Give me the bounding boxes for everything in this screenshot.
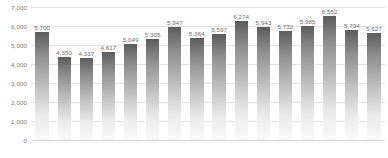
y-axis-tick-label: 2,000 (11, 99, 27, 106)
x-axis-tick (31, 140, 53, 158)
x-axis-tick (142, 140, 164, 158)
bar-value-label: 5,732 (278, 23, 294, 30)
x-axis-tick (53, 140, 75, 158)
bar-slot: 4,617 (97, 7, 119, 140)
bar-slot: 5,700 (31, 7, 53, 140)
x-axis-tick (75, 140, 97, 158)
bar-value-label: 5,305 (145, 31, 161, 38)
bar-value-label: 5,597 (211, 26, 227, 33)
bar[interactable]: 5,700 (35, 32, 48, 140)
bar-slot: 5,943 (252, 7, 274, 140)
bar-value-label: 6,552 (322, 8, 338, 15)
plot-area: 5,7004,3504,3374,6175,0495,3055,9475,364… (31, 7, 385, 140)
bar-value-label: 5,985 (300, 18, 316, 25)
bar[interactable]: 5,947 (168, 27, 181, 140)
bar[interactable]: 4,617 (102, 52, 115, 140)
bar-value-label: 5,794 (344, 22, 360, 29)
bar-slot: 5,985 (297, 7, 319, 140)
bar-value-label: 5,627 (366, 25, 382, 32)
x-axis-tick (230, 140, 252, 158)
bar[interactable]: 5,985 (301, 26, 314, 140)
bar-slot: 5,947 (164, 7, 186, 140)
x-axis-tick (164, 140, 186, 158)
x-axis (31, 140, 385, 158)
bar-slot: 6,552 (319, 7, 341, 140)
bar-slot: 5,049 (120, 7, 142, 140)
bar-slot: 6,274 (230, 7, 252, 140)
bar-slot: 5,305 (142, 7, 164, 140)
bar[interactable]: 5,049 (124, 44, 137, 140)
bar-value-label: 5,947 (167, 19, 183, 26)
y-axis-tick-label: 6,000 (11, 23, 27, 30)
y-axis-tick-label: 7,000 (11, 4, 27, 11)
x-axis-tick (120, 140, 142, 158)
bar-slot: 5,597 (208, 7, 230, 140)
bar-slot: 5,627 (363, 7, 385, 140)
bar-slot: 5,364 (186, 7, 208, 140)
bar-slot: 5,794 (341, 7, 363, 140)
x-axis-tick (363, 140, 385, 158)
bar[interactable]: 5,943 (257, 27, 270, 140)
bar-value-label: 4,350 (56, 49, 72, 56)
y-axis-tick-label: 3,000 (11, 80, 27, 87)
bar[interactable]: 5,794 (345, 30, 358, 140)
x-axis-tick (186, 140, 208, 158)
y-axis-tick-label: 1,000 (11, 118, 27, 125)
x-axis-tick (97, 140, 119, 158)
bar[interactable]: 5,732 (279, 31, 292, 140)
bar-slot: 4,350 (53, 7, 75, 140)
x-axis-tick (252, 140, 274, 158)
bar-value-label: 5,700 (34, 24, 50, 31)
bar-slot: 5,732 (274, 7, 296, 140)
x-axis-tick (274, 140, 296, 158)
y-axis: 01,0002,0003,0004,0005,0006,0007,000 (0, 0, 30, 158)
y-axis-tick-label: 5,000 (11, 42, 27, 49)
y-axis-tick-label: 0 (23, 137, 27, 144)
x-axis-tick (208, 140, 230, 158)
bar-value-label: 5,364 (189, 30, 205, 37)
bar-value-label: 4,337 (78, 50, 94, 57)
bar[interactable]: 5,627 (367, 33, 380, 140)
x-axis-tick (319, 140, 341, 158)
bar-value-label: 5,943 (255, 19, 271, 26)
y-axis-tick-label: 4,000 (11, 61, 27, 68)
bar[interactable]: 6,274 (235, 21, 248, 140)
bar-value-label: 6,274 (233, 13, 249, 20)
x-axis-tick (297, 140, 319, 158)
bar-value-label: 4,617 (101, 44, 117, 51)
bar-series: 5,7004,3504,3374,6175,0495,3055,9475,364… (31, 7, 385, 140)
bar-value-label: 5,049 (123, 36, 139, 43)
bar-slot: 4,337 (75, 7, 97, 140)
x-axis-tick (341, 140, 363, 158)
bar[interactable]: 5,305 (146, 39, 159, 140)
bar[interactable]: 4,337 (80, 58, 93, 140)
bar[interactable]: 5,597 (212, 34, 225, 140)
bar[interactable]: 4,350 (58, 57, 71, 140)
bar-chart: 01,0002,0003,0004,0005,0006,0007,000 5,7… (0, 0, 388, 158)
bar[interactable]: 6,552 (323, 16, 336, 140)
bar[interactable]: 5,364 (190, 38, 203, 140)
